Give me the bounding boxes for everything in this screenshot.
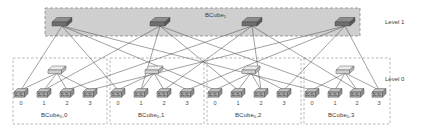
server-bcube0-3-3[interactable]	[372, 89, 386, 98]
server-bcube0-1-2[interactable]	[157, 89, 171, 98]
server-bcube0-1-0[interactable]	[111, 89, 125, 98]
server-num-bcube0-1-1: 1	[136, 101, 146, 107]
server-bcube0-1-1[interactable]	[134, 89, 148, 98]
server-num-bcube0-2-2: 2	[256, 101, 266, 107]
l0-switch-bcube0-2[interactable]	[242, 66, 260, 74]
group-label-bcube0-0: BCube0,0	[41, 112, 68, 118]
level0-switches	[48, 66, 354, 74]
server-num-bcube0-3-0: 0	[307, 101, 317, 107]
server-num-bcube0-0-0: 0	[16, 101, 26, 107]
server-bcube0-2-2[interactable]	[254, 89, 268, 98]
server-num-bcube0-0-1: 1	[39, 101, 49, 107]
group-label-bcube0-2: BCube0,2	[235, 112, 262, 118]
server-num-bcube0-2-3: 3	[279, 101, 289, 107]
bcube-topology-figure: BCube1 Level 1 Level 0 BCube0,0 BCube0,1…	[0, 0, 421, 132]
server-num-bcube0-1-2: 2	[159, 101, 169, 107]
server-num-bcube0-1-3: 3	[182, 101, 192, 107]
level-0-side-label: Level 0	[385, 76, 404, 82]
server-bcube0-0-1[interactable]	[37, 89, 51, 98]
server-bcube0-2-0[interactable]	[208, 89, 222, 98]
server-num-bcube0-2-0: 0	[210, 101, 220, 107]
servers	[14, 89, 386, 98]
server-bcube0-2-3[interactable]	[277, 89, 291, 98]
group-label-bcube0-3: BCube0,3	[328, 112, 355, 118]
level1-band-label: BCube1	[205, 12, 226, 18]
server-num-bcube0-0-2: 2	[62, 101, 72, 107]
level-1-side-label: Level 1	[385, 19, 404, 25]
level1-band	[45, 8, 360, 36]
server-bcube0-2-1[interactable]	[231, 89, 245, 98]
server-bcube0-0-0[interactable]	[14, 89, 28, 98]
server-num-bcube0-3-2: 2	[352, 101, 362, 107]
server-bcube0-0-3[interactable]	[83, 89, 97, 98]
server-num-bcube0-0-3: 3	[85, 101, 95, 107]
l0-switch-bcube0-3[interactable]	[336, 66, 354, 74]
server-num-bcube0-2-1: 1	[233, 101, 243, 107]
server-bcube0-3-2[interactable]	[350, 89, 364, 98]
group-label-bcube0-1: BCube0,1	[138, 112, 165, 118]
server-num-bcube0-1-0: 0	[113, 101, 123, 107]
server-bcube0-1-3[interactable]	[180, 89, 194, 98]
server-bcube0-0-2[interactable]	[60, 89, 74, 98]
l0-switch-bcube0-0[interactable]	[48, 66, 66, 74]
server-bcube0-3-0[interactable]	[305, 89, 319, 98]
server-bcube0-3-1[interactable]	[328, 89, 342, 98]
server-num-bcube0-3-1: 1	[330, 101, 340, 107]
server-num-bcube0-3-3: 3	[374, 101, 384, 107]
